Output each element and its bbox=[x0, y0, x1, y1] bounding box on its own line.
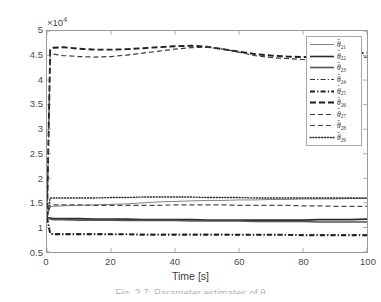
series-line-theta_28 bbox=[47, 205, 367, 218]
x-tick-label: 80 bbox=[284, 256, 324, 267]
legend-line-sample-theta_28 bbox=[309, 120, 335, 131]
legend-item-theta_26[interactable]: ˆθ26 bbox=[309, 97, 359, 109]
legend-line-sample-theta_27 bbox=[309, 109, 335, 120]
figure-container: ×104 0.511.522.533.544.55 020406080100 T… bbox=[0, 0, 381, 302]
legend-item-theta_24[interactable]: ˆθ24 bbox=[309, 74, 359, 86]
x-tick-label: 20 bbox=[90, 256, 130, 267]
y-tick-label: 1.5 bbox=[3, 198, 43, 208]
legend-item-theta_28[interactable]: ˆθ28 bbox=[309, 120, 359, 132]
y-tick-label: 3 bbox=[3, 124, 43, 134]
legend-line-sample-theta_22 bbox=[309, 51, 335, 62]
legend-item-theta_22[interactable]: ˆθ22 bbox=[309, 51, 359, 63]
legend-item-theta_29[interactable]: ˆθ29 bbox=[309, 132, 359, 144]
legend-item-theta_25[interactable]: ˆθ25 bbox=[309, 85, 359, 97]
series-line-theta_21 bbox=[47, 198, 367, 217]
y-tick-label: 2 bbox=[3, 174, 43, 184]
x-tick-label: 100 bbox=[348, 256, 381, 267]
figure-caption: Fig. 2.7: Parameter estimates of θ bbox=[0, 288, 381, 294]
legend-line-sample-theta_25 bbox=[309, 86, 335, 97]
y-axis-exponent-label: ×104 bbox=[47, 16, 67, 28]
legend: ˆθ21ˆθ22ˆθ23ˆθ24ˆθ25ˆθ26ˆθ27ˆθ28ˆθ29 bbox=[306, 36, 362, 146]
x-axis-title: Time [s] bbox=[0, 270, 381, 282]
x-tick-label: 60 bbox=[219, 256, 259, 267]
y-tick-label: 5 bbox=[3, 25, 43, 35]
legend-line-sample-theta_24 bbox=[309, 74, 335, 85]
y-tick-label: 2.5 bbox=[3, 149, 43, 159]
y-tick-label: 3.5 bbox=[3, 99, 43, 109]
legend-line-sample-theta_29 bbox=[309, 132, 335, 143]
legend-label-theta_29: ˆθ29 bbox=[335, 133, 346, 142]
x-tick-label: 40 bbox=[155, 256, 195, 267]
y-axis-exponent-power: 4 bbox=[63, 16, 67, 23]
y-axis-exponent-prefix: ×10 bbox=[47, 17, 63, 28]
y-tick-label: 1 bbox=[3, 223, 43, 233]
x-tick-label: 0 bbox=[26, 256, 66, 267]
y-tick-label: 4.5 bbox=[3, 50, 43, 60]
y-tick-label: 4 bbox=[3, 75, 43, 85]
legend-item-theta_27[interactable]: ˆθ27 bbox=[309, 109, 359, 121]
legend-item-theta_21[interactable]: ˆθ21 bbox=[309, 39, 359, 51]
legend-line-sample-theta_21 bbox=[309, 39, 335, 50]
legend-item-theta_23[interactable]: ˆθ23 bbox=[309, 62, 359, 74]
legend-line-sample-theta_23 bbox=[309, 62, 335, 73]
legend-line-sample-theta_26 bbox=[309, 97, 335, 108]
